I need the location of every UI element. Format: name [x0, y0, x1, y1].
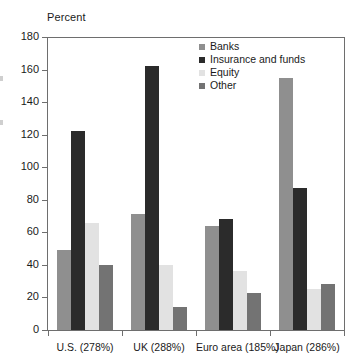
y-tick-mark — [42, 265, 47, 266]
legend-swatch-icon — [199, 44, 205, 50]
bar — [205, 226, 219, 330]
x-axis-tick — [48, 330, 49, 336]
y-axis-tick: 60 — [0, 232, 47, 233]
legend-swatch-icon — [199, 83, 205, 89]
x-axis-label: U.S. (278%) — [48, 341, 122, 353]
legend-label: Insurance and funds — [210, 54, 305, 65]
y-tick-mark — [42, 135, 47, 136]
y-tick-mark — [42, 37, 47, 38]
bar — [159, 265, 173, 330]
y-axis-tick: 80 — [0, 200, 47, 201]
bar — [219, 219, 233, 330]
bar — [145, 66, 159, 330]
bar — [85, 223, 99, 330]
y-tick-mark — [42, 200, 47, 201]
bar — [99, 265, 113, 330]
y-axis-tick: 180 — [0, 37, 47, 38]
y-tick-mark — [42, 102, 47, 103]
y-tick-label: 160 — [21, 63, 39, 76]
x-axis-label: UK (288%) — [122, 341, 196, 353]
y-tick-label: 180 — [21, 30, 39, 43]
y-tick-label: 60 — [27, 225, 39, 238]
bar — [233, 271, 247, 330]
x-axis-tick — [122, 330, 123, 336]
y-tick-label: 20 — [27, 290, 39, 303]
legend-item: Insurance and funds — [199, 54, 305, 65]
y-axis-title: Percent — [47, 11, 86, 23]
legend-label: Banks — [210, 41, 239, 52]
y-axis-tick: 0 — [0, 330, 47, 331]
x-axis-tick — [196, 330, 197, 336]
bar — [247, 293, 261, 330]
x-axis-tick — [270, 330, 271, 336]
x-axis-label: Japan (286%) — [270, 341, 344, 353]
y-tick-label: 100 — [21, 160, 39, 173]
legend-label: Other — [210, 80, 236, 91]
y-tick-label: 120 — [21, 128, 39, 141]
y-tick-mark — [42, 330, 47, 331]
legend-item: Other — [199, 80, 305, 91]
y-tick-mark — [42, 167, 47, 168]
y-tick-label: 40 — [27, 258, 39, 271]
bar — [307, 289, 321, 330]
y-tick-label: 0 — [33, 323, 39, 336]
x-axis-label: Euro area (185%) — [196, 341, 270, 353]
bar — [173, 307, 187, 330]
scan-artifact-bottom — [0, 120, 3, 125]
bar — [57, 250, 71, 330]
y-axis-tick: 40 — [0, 265, 47, 266]
y-axis-tick: 160 — [0, 70, 47, 71]
chart-legend: BanksInsurance and fundsEquityOther — [199, 41, 305, 93]
y-axis-tick: 100 — [0, 167, 47, 168]
x-axis-tick — [344, 330, 345, 336]
scan-artifact-top — [0, 76, 3, 81]
legend-item: Equity — [199, 67, 305, 78]
y-axis-tick: 20 — [0, 297, 47, 298]
bar — [71, 131, 85, 330]
bar — [279, 78, 293, 330]
y-axis-tick: 140 — [0, 102, 47, 103]
y-tick-label: 140 — [21, 95, 39, 108]
bar — [131, 214, 145, 330]
bar — [321, 284, 335, 330]
y-tick-mark — [42, 70, 47, 71]
y-tick-label: 80 — [27, 193, 39, 206]
legend-swatch-icon — [199, 57, 205, 63]
y-tick-mark — [42, 297, 47, 298]
y-axis-tick: 120 — [0, 135, 47, 136]
legend-swatch-icon — [199, 70, 205, 76]
bar-chart: Percent 180160140120100806040200 U.S. (2… — [0, 0, 359, 360]
legend-item: Banks — [199, 41, 305, 52]
legend-label: Equity — [210, 67, 239, 78]
y-tick-mark — [42, 232, 47, 233]
bar — [293, 188, 307, 330]
